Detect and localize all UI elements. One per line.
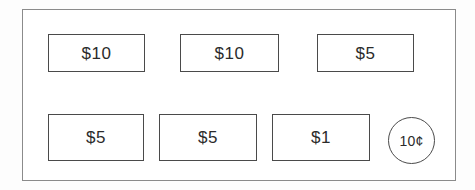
bill-5-b[interactable]: $5 [48, 114, 144, 161]
bill-10-a-label: $10 [82, 45, 112, 62]
diagram-canvas: $10 $10 $5 $5 $5 $1 10¢ [0, 0, 475, 190]
bill-10-b[interactable]: $10 [180, 34, 279, 72]
bill-5-a-label: $5 [356, 45, 376, 62]
bill-5-c[interactable]: $5 [159, 114, 257, 161]
coin-10c[interactable]: 10¢ [388, 117, 435, 164]
bill-5-c-label: $5 [198, 129, 218, 146]
bill-10-a[interactable]: $10 [48, 34, 145, 72]
bill-5-b-label: $5 [86, 129, 106, 146]
bill-1-a-label: $1 [311, 129, 331, 146]
outer-frame: $10 $10 $5 $5 $5 $1 10¢ [22, 9, 456, 181]
bill-5-a[interactable]: $5 [317, 34, 414, 72]
coin-10c-label: 10¢ [400, 134, 424, 148]
bill-10-b-label: $10 [215, 45, 245, 62]
bill-1-a[interactable]: $1 [272, 114, 370, 161]
